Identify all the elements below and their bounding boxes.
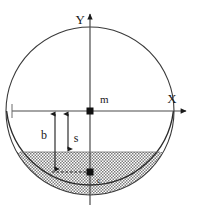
point-c-marker [87, 169, 94, 176]
figure-container: Y X m c b s [0, 0, 200, 211]
y-axis-label: Y [76, 12, 86, 27]
dimension-s-label: s [74, 131, 79, 145]
dimension-b-label: b [41, 128, 47, 142]
point-c-label: c [97, 176, 101, 185]
diagram-canvas: Y X m c b s [0, 0, 200, 211]
point-m-label: m [100, 93, 109, 105]
point-m-marker [87, 108, 94, 115]
x-axis-label: X [167, 91, 177, 106]
